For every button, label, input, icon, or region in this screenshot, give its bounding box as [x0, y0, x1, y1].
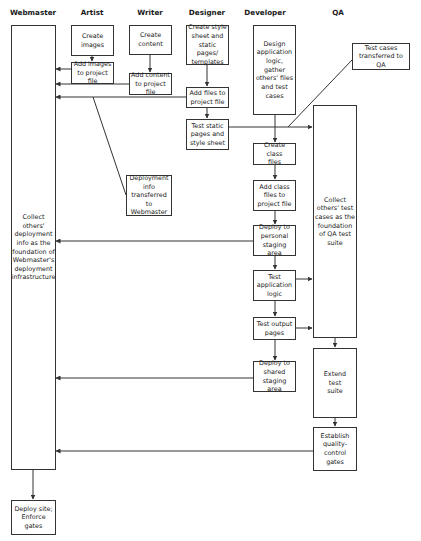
node-label: Add images to project file [73, 60, 112, 86]
node-webmaster-collect: Collect others' deployment info as the f… [11, 25, 56, 470]
node-label: Collect others' deployment info as the f… [12, 213, 56, 282]
node-developer-test-output: Test output pages [253, 317, 296, 340]
node-label: Test cases transferred to QA [354, 44, 408, 70]
node-label: Test output pages [257, 320, 293, 337]
node-artist-create-images: Create images [71, 25, 114, 56]
node-webmaster-deploy-site: Deploy site; Enforce gates [11, 500, 56, 535]
node-deployment-info-transferred: Deployment info transferred to Webmaster [126, 175, 172, 216]
node-label: Create style sheet and static pages/ tem… [188, 23, 227, 66]
node-label: Collect others' test cases as the founda… [315, 196, 355, 248]
node-developer-create-class: Create class files [253, 143, 296, 165]
node-artist-add-images: Add images to project file [71, 62, 114, 84]
node-label: Test application logic [257, 273, 292, 299]
node-label: Create content [138, 31, 162, 48]
node-label: Extend test suite [324, 370, 346, 396]
node-developer-deploy-personal: Deploy to personal staging area [253, 225, 296, 256]
node-developer-design-logic: Design application logic, gather others'… [253, 25, 296, 115]
node-label: Create class files [255, 141, 294, 167]
connector-lines [0, 0, 421, 541]
node-writer-create-content: Create content [129, 25, 172, 55]
node-qa-establish-gates: Establish quality- control gates [313, 427, 357, 471]
node-label: Deploy site; Enforce gates [14, 505, 52, 531]
node-designer-test-static: Test static pages and style sheet [186, 119, 229, 150]
node-test-cases-transferred: Test cases transferred to QA [352, 43, 410, 70]
node-developer-test-logic: Test application logic [253, 270, 296, 301]
node-label: Add class files to project file [258, 183, 292, 209]
node-developer-deploy-shared: Deploy to shared staging area [253, 361, 296, 392]
node-label: Deploy to shared staging area [255, 359, 294, 394]
node-label: Establish quality- control gates [321, 432, 350, 467]
node-label: Test static pages and style sheet [190, 122, 225, 148]
node-label: Create images [81, 32, 104, 49]
node-label: Add files to project file [190, 89, 226, 106]
node-writer-add-content: Add content to project file [129, 73, 172, 95]
node-label: Add content to project file [131, 71, 170, 97]
node-designer-add-files: Add files to project file [186, 87, 229, 108]
node-qa-collect: Collect others' test cases as the founda… [313, 105, 357, 338]
node-developer-add-class: Add class files to project file [253, 180, 296, 211]
node-label: Deployment info transferred to Webmaster [128, 174, 170, 217]
node-label: Design application logic, gather others'… [256, 40, 293, 100]
node-designer-create-style: Create style sheet and static pages/ tem… [186, 25, 229, 65]
node-label: Deploy to personal staging area [255, 223, 294, 258]
node-qa-extend: Extend test suite [313, 348, 357, 418]
